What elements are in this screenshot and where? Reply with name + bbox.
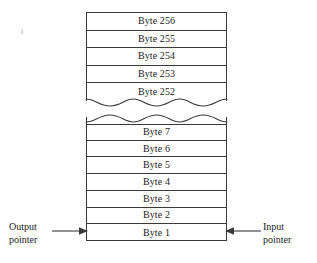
output-pointer-arrow-icon [52, 224, 88, 238]
scan-artifact-speck [21, 29, 23, 34]
input-pointer-label-line1: Input [263, 221, 291, 234]
byte-cell-label: Byte 3 [143, 194, 170, 204]
input-pointer-label-line2: pointer [263, 234, 291, 247]
torn-edge-upper-icon [85, 96, 228, 108]
byte-cell-label: Byte 4 [143, 177, 170, 187]
byte-cell-label: Byte 2 [143, 210, 170, 220]
byte-cell: Byte 256 [87, 13, 226, 31]
byte-cell: Byte 2 [87, 208, 226, 225]
byte-cell-label: Byte 253 [138, 69, 175, 79]
upper-buffer-block: Byte 256 Byte 255 Byte 254 Byte 253 Byte… [86, 12, 227, 101]
byte-cell-label: Byte 7 [143, 127, 170, 137]
input-pointer-arrow-icon [225, 224, 261, 238]
byte-cell: Byte 253 [87, 66, 226, 84]
byte-cell-label: Byte 1 [143, 228, 170, 238]
byte-cell: Byte 4 [87, 174, 226, 191]
byte-cell-label: Byte 256 [138, 16, 175, 26]
byte-cell: Byte 1 [87, 224, 226, 241]
byte-cell: Byte 5 [87, 157, 226, 174]
byte-cell: Byte 6 [87, 141, 226, 158]
byte-cell: Byte 3 [87, 191, 226, 208]
byte-cell-label: Byte 254 [138, 51, 175, 61]
byte-cell: Byte 7 [87, 124, 226, 141]
output-pointer-label-line1: Output [9, 221, 37, 234]
buffer-diagram: Byte 256 Byte 255 Byte 254 Byte 253 Byte… [0, 0, 317, 263]
lower-buffer-block: Byte 7 Byte 6 Byte 5 Byte 4 Byte 3 Byte … [86, 117, 227, 241]
byte-cell-label: Byte 6 [143, 144, 170, 154]
byte-cell-label: Byte 255 [138, 34, 175, 44]
output-pointer-label-line2: pointer [9, 234, 37, 247]
byte-cell: Byte 254 [87, 48, 226, 66]
byte-cell: Byte 255 [87, 31, 226, 49]
output-pointer-label: Output pointer [9, 221, 37, 246]
input-pointer-label: Input pointer [263, 221, 291, 246]
byte-cell-label: Byte 5 [143, 160, 170, 170]
